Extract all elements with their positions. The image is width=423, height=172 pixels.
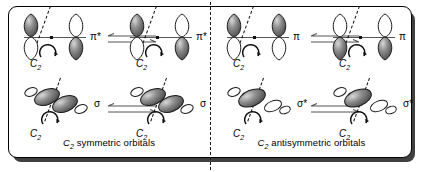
orbital-diagram-pi-right: π C2 <box>329 10 415 72</box>
sigma-orbital-pair <box>128 84 196 118</box>
p-orbital-right <box>171 12 193 62</box>
c2-axis-label: C2 <box>30 58 41 71</box>
orbital-type-label: π <box>293 31 300 42</box>
p-orbital-left <box>126 12 148 62</box>
p-orbital-right <box>374 12 396 62</box>
p-orbital-left <box>20 12 42 62</box>
sigma-orbital-pair <box>22 84 90 118</box>
orbital-diagram-pi-star-left: π* C2 <box>20 10 106 72</box>
orbital-type-label: π* <box>196 31 207 42</box>
panel-c2-antisymmetric: π C2 π C2 <box>211 6 412 158</box>
panel-caption-antisymmetric: C2 antisymmetric orbitals <box>211 137 412 150</box>
c2-axis-label: C2 <box>339 58 350 71</box>
bond-center-dot <box>156 36 159 39</box>
orbital-diagram-pi-star-right: π* C2 <box>126 10 212 72</box>
orbital-type-label: σ* <box>297 98 307 109</box>
p-orbital-right <box>65 12 87 62</box>
orbital-type-label: σ <box>94 98 100 109</box>
sigma-star-orbital-pair <box>331 84 399 118</box>
diagram-canvas: π* C2 π* C2 <box>0 0 423 172</box>
bond-center-dot <box>50 36 53 39</box>
panel-c2-symmetric: π* C2 π* C2 <box>8 6 210 158</box>
orbital-type-label: σ <box>200 98 206 109</box>
orbital-type-label: π <box>399 31 406 42</box>
orbital-type-label: π* <box>90 31 101 42</box>
c2-axis-label: C2 <box>233 58 244 71</box>
bond-center-dot <box>253 36 256 39</box>
sigma-star-orbital-pair <box>225 84 293 118</box>
panel-caption-symmetric: C2 symmetric orbitals <box>8 137 210 150</box>
orbital-diagram-pi-left: π C2 <box>223 10 309 72</box>
c2-axis-label: C2 <box>136 58 147 71</box>
p-orbital-left <box>223 12 245 62</box>
bond-center-dot <box>359 36 362 39</box>
p-orbital-right <box>268 12 290 62</box>
orbital-type-label: σ* <box>403 98 413 109</box>
p-orbital-left <box>329 12 351 62</box>
